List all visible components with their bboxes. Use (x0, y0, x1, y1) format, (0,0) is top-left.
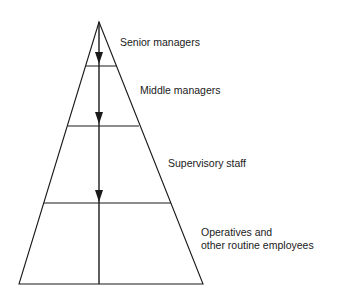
label-operatives-line1: Operatives and (201, 226, 272, 239)
label-senior-managers: Senior managers (120, 36, 200, 49)
arrow-head-3-icon (95, 190, 103, 202)
pyramid-outline (19, 22, 203, 284)
label-middle-managers: Middle managers (140, 84, 221, 97)
arrow-head-1-icon (95, 52, 103, 64)
arrow-head-2-icon (95, 112, 103, 124)
label-operatives-line2: other routine employees (201, 239, 314, 252)
label-supervisory-staff: Supervisory staff (168, 157, 246, 170)
